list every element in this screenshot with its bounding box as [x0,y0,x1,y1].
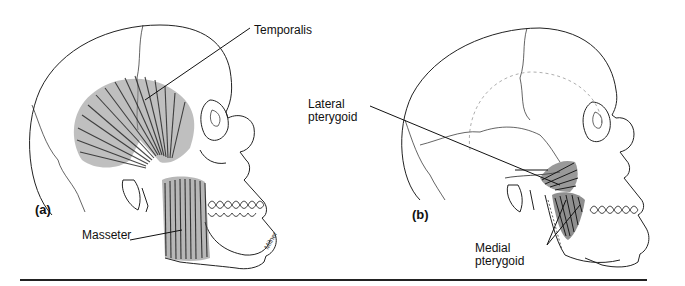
skull-b [402,28,649,267]
masseter-muscle-a [162,176,210,261]
panel-label-a: (a) [35,202,51,217]
temporalis-muscle-a [74,76,194,168]
label-lateral-pterygoid-line2: pterygoid [308,111,357,124]
anatomy-figure: Milner [0,0,685,286]
label-medial-pterygoid-line2: pterygoid [475,255,524,268]
label-masseter: Masseter [82,229,131,242]
label-lateral-pterygoid: Lateral pterygoid [308,98,357,124]
lateral-pterygoid-muscle [540,161,578,192]
label-medial-pterygoid: Medial pterygoid [475,242,524,268]
bottom-rule [20,279,647,281]
panel-label-b: (b) [412,207,429,222]
label-temporalis: Temporalis [254,24,312,37]
